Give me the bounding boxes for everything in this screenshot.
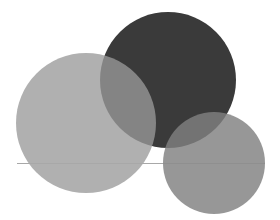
figure-canvas <box>0 0 280 220</box>
light-gray-circle <box>16 53 156 193</box>
circles-figure <box>0 0 280 220</box>
